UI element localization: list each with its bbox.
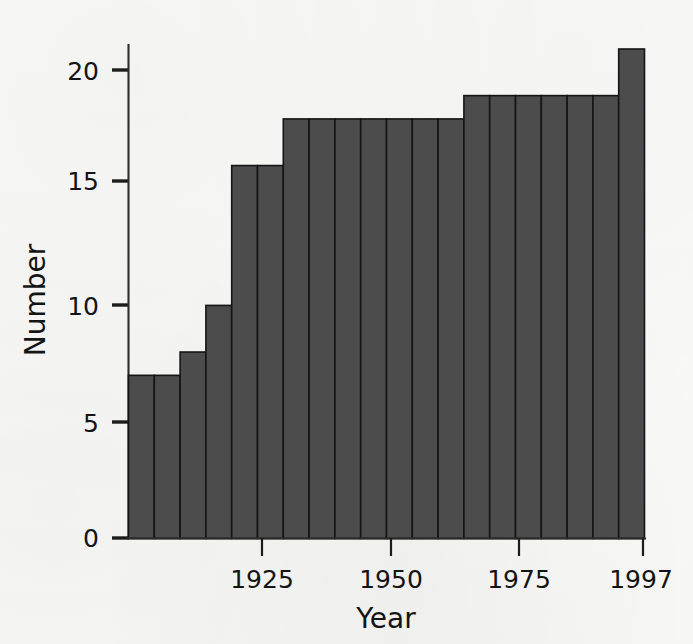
- x-tick-label-group: 1925 1950 1975 1997: [230, 565, 673, 594]
- bar-1932: [309, 119, 335, 539]
- bar-1987: [593, 96, 619, 539]
- y-tick-mark-group: [112, 70, 129, 538]
- bar-1977: [541, 96, 567, 539]
- chart-figure: Number 0 5 10 15 20: [0, 0, 693, 644]
- bar-1962: [464, 96, 490, 539]
- bar-1942: [361, 119, 387, 539]
- bar-1992: [619, 49, 645, 539]
- x-tick-mark-group: [262, 538, 643, 556]
- x-tick-label-1925: 1925: [230, 565, 294, 594]
- bar-1897: [129, 375, 155, 538]
- y-tick-label-10: 10: [67, 292, 99, 321]
- y-tick-label-15: 15: [67, 167, 99, 196]
- x-axis-title: Year: [355, 602, 416, 635]
- bar-1902: [154, 375, 180, 538]
- y-tick-label-group: 0 5 10 15 20: [67, 57, 99, 553]
- bar-1922: [258, 166, 284, 539]
- y-axis-title: Number: [19, 243, 52, 356]
- bar-1907: [180, 352, 206, 538]
- bar-series: [129, 49, 645, 539]
- histogram-svg: Number 0 5 10 15 20: [0, 0, 693, 644]
- x-tick-label-1950: 1950: [359, 565, 423, 594]
- bar-1927: [283, 119, 309, 539]
- x-tick-label-1975: 1975: [487, 565, 551, 594]
- bar-1917: [232, 166, 258, 539]
- x-tick-label-1997: 1997: [609, 565, 673, 594]
- y-tick-label-20: 20: [67, 57, 99, 86]
- bar-1912: [206, 305, 232, 538]
- bar-1947: [387, 119, 413, 539]
- bar-1952: [412, 119, 438, 539]
- bar-1937: [335, 119, 361, 539]
- bar-1982: [567, 96, 593, 539]
- bar-1967: [490, 96, 516, 539]
- y-tick-label-5: 5: [83, 409, 99, 438]
- y-tick-label-0: 0: [83, 524, 99, 553]
- bar-1972: [516, 96, 542, 539]
- bar-1957: [438, 119, 464, 539]
